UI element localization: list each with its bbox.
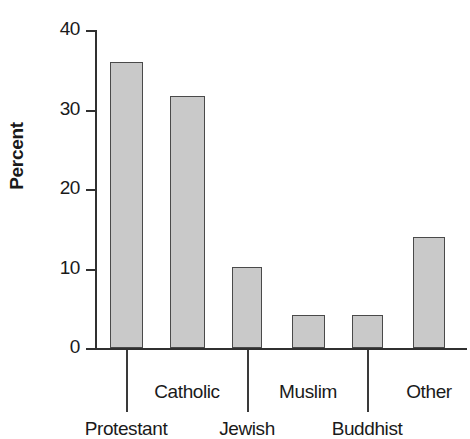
bar-other (413, 237, 445, 348)
y-tick-40: 40 (86, 30, 95, 32)
x-label-muslim: Muslim (279, 382, 337, 402)
y-tick-label-30: 30 (60, 99, 80, 118)
y-axis-title: Percent (6, 96, 28, 216)
y-tick-label-40: 40 (60, 19, 80, 38)
x-axis-baseline (95, 348, 467, 350)
bar-catholic (170, 96, 205, 348)
y-tick-label-0: 0 (70, 337, 80, 356)
x-label-buddhist: Buddhist (332, 419, 403, 439)
y-tick-label-20: 20 (60, 178, 80, 197)
x-label-other: Other (406, 382, 452, 402)
y-tick-0: 0 (86, 348, 95, 350)
y-tick-label-10: 10 (60, 258, 80, 277)
bar-protestant (110, 62, 143, 348)
y-tick-30: 30 (86, 110, 95, 112)
y-tick-20: 20 (86, 189, 95, 191)
y-tick-10: 10 (86, 269, 95, 271)
plot-area: 40 30 20 10 0 Catholic Muslim Other Prot… (95, 30, 455, 348)
leader-tick-jewish (247, 350, 249, 412)
bar-jewish (232, 267, 262, 348)
y-axis-spine (95, 30, 97, 348)
x-label-jewish: Jewish (219, 419, 275, 439)
x-label-protestant: Protestant (85, 419, 168, 439)
leader-tick-protestant (126, 350, 128, 412)
x-label-catholic: Catholic (154, 382, 219, 402)
leader-tick-buddhist (367, 350, 369, 412)
bar-muslim (292, 315, 325, 348)
bar-buddhist (352, 315, 383, 348)
